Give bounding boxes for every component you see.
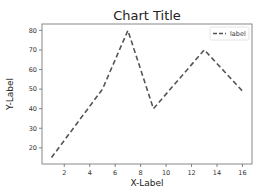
x-tick-label: 6 — [113, 169, 117, 177]
y-axis-ticks: 20304050607080 — [29, 27, 42, 152]
x-tick-label: 10 — [162, 169, 170, 177]
legend-label: label — [230, 30, 246, 38]
chart-title: Chart Title — [113, 8, 181, 23]
y-tick-label: 20 — [29, 144, 37, 152]
x-axis-label: X-Label — [130, 178, 163, 188]
x-tick-label: 16 — [238, 169, 246, 177]
y-tick-label: 50 — [29, 85, 37, 93]
y-tick-label: 80 — [29, 27, 37, 35]
plot-area — [42, 24, 252, 164]
line-chart: Chart Title 20304050607080 246810121416 … — [0, 0, 267, 196]
x-tick-label: 12 — [187, 169, 195, 177]
y-tick-label: 70 — [29, 46, 37, 54]
y-tick-label: 60 — [29, 66, 37, 74]
x-tick-label: 2 — [62, 169, 66, 177]
y-axis-label: Y-Label — [5, 78, 15, 111]
chart-figure: Chart Title 20304050607080 246810121416 … — [0, 0, 267, 196]
x-tick-label: 4 — [88, 169, 92, 177]
x-axis-ticks: 246810121416 — [62, 164, 246, 177]
y-tick-label: 30 — [29, 125, 37, 133]
legend: label — [210, 27, 249, 40]
y-tick-label: 40 — [29, 105, 37, 113]
x-tick-label: 8 — [139, 169, 143, 177]
x-tick-label: 14 — [213, 169, 221, 177]
